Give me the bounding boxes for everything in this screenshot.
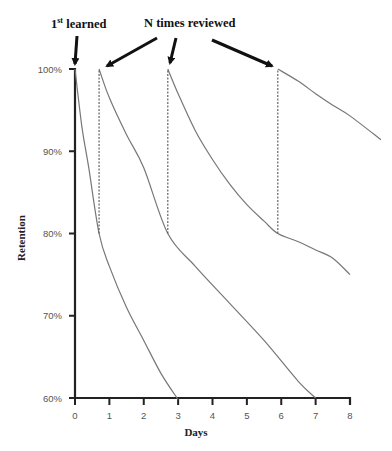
x-tick-label: 7: [313, 410, 318, 421]
retention-curve-3: [278, 69, 381, 140]
annotation-first-learned-suffix: learned: [63, 17, 106, 31]
x-tick-label: 8: [347, 410, 352, 421]
arrow-review-3: [212, 40, 272, 66]
retention-curve-0: [75, 69, 178, 400]
x-tick-label: 2: [141, 410, 146, 421]
x-tick-label: 3: [175, 410, 180, 421]
annotation-reviewed: N times reviewed: [144, 16, 235, 31]
curves: [75, 69, 381, 400]
x-axis-line: [69, 398, 350, 405]
x-tick-label: 4: [210, 410, 215, 421]
y-tick-label: 90%: [43, 146, 63, 157]
y-tick-label: 80%: [43, 228, 63, 239]
y-tick-label: 60%: [43, 393, 63, 404]
x-tick-label: 1: [107, 410, 112, 421]
arrow-review-2: [170, 38, 176, 63]
y-tick-label: 70%: [43, 310, 63, 321]
annotation-first-learned: 1st learned: [51, 16, 106, 32]
y-axis-label: Retention: [15, 203, 27, 273]
x-tick-label: 5: [244, 410, 249, 421]
y-tick-label: 100%: [38, 64, 63, 75]
retention-curve-2: [168, 69, 350, 275]
axes: 60%70%80%90%100%012345678: [38, 64, 353, 422]
chart-canvas: 60%70%80%90%100%012345678: [0, 0, 392, 451]
x-tick-label: 6: [279, 410, 284, 421]
arrow-first-learned: [75, 36, 77, 64]
annotation-arrows: [75, 36, 272, 66]
arrow-review-1: [107, 38, 157, 66]
retention-curve-1: [99, 69, 316, 398]
x-tick-label: 0: [72, 410, 77, 421]
x-axis-label: Days: [184, 426, 207, 438]
